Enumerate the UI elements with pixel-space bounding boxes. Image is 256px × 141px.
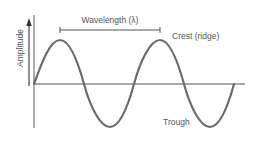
wavelength-bracket (60, 27, 160, 33)
wavelength-label: Wavelength (λ) (82, 15, 139, 25)
trough-label: Trough (163, 117, 190, 127)
amplitude-arrow (26, 18, 31, 86)
crest-label: Crest (ridge) (172, 31, 219, 41)
wave-diagram: Amplitude Wavelength (λ) Crest (ridge) T… (0, 0, 256, 141)
amplitude-label: Amplitude (15, 29, 25, 67)
